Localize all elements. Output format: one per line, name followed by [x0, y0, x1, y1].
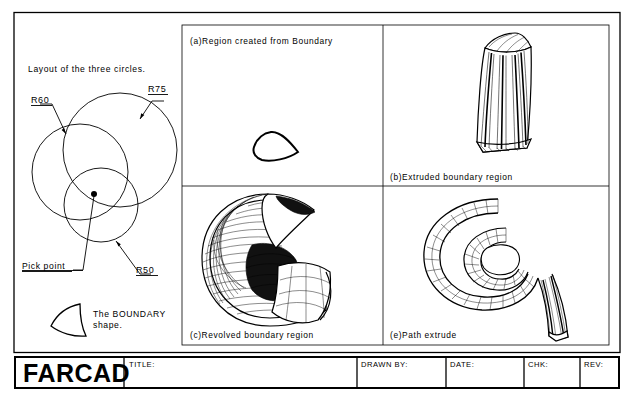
title-field-label: TITLE: — [129, 360, 155, 369]
circle-r75 — [63, 93, 177, 207]
label-r50: R50 — [136, 265, 154, 275]
drawing-canvas: Layout of the three circles. R60 R75 — [0, 0, 634, 399]
boundary-shape-glyph — [51, 304, 86, 336]
boundary-note-line2: shape. — [93, 320, 122, 330]
date-field-label: DATE: — [450, 360, 474, 369]
spiral-center-hole — [481, 245, 519, 275]
panel-b: (b)Extruded boundary region — [390, 33, 531, 182]
panel-b-caption: (b)Extruded boundary region — [390, 172, 513, 182]
panel-c: (c)Revolved boundary region — [190, 194, 331, 340]
circle-layout-panel: Layout of the three circles. R60 R75 — [22, 64, 177, 336]
title-block: FARCAD TITLE: DRAWN BY: DATE: CHK: REV: — [15, 357, 619, 388]
extruded-prism-figure — [477, 33, 531, 152]
drawn-by-field-label: DRAWN BY: — [361, 360, 408, 369]
label-r75: R75 — [148, 84, 166, 94]
circle-r60 — [32, 124, 128, 220]
label-pick-point: Pick point — [22, 261, 65, 271]
layout-heading: Layout of the three circles. — [28, 64, 146, 74]
region-shape — [253, 132, 298, 161]
panel-c-caption: (c)Revolved boundary region — [190, 330, 314, 340]
rev-field-label: REV: — [584, 360, 603, 369]
leader-pick-point: Pick point — [22, 196, 94, 272]
revolved-solid-figure — [202, 194, 331, 326]
panel-a-caption: (a)Region created from Boundary — [190, 36, 333, 46]
drawing-sheet: Layout of the three circles. R60 R75 — [0, 0, 634, 399]
revolve-lower-mouth — [272, 263, 331, 323]
leader-r50: R50 — [116, 241, 158, 276]
path-extrude-figure — [424, 199, 568, 341]
boundary-note-line1: The BOUNDARY — [93, 309, 166, 319]
label-r60: R60 — [31, 95, 49, 105]
panel-e-caption: (e)Path extrude — [390, 330, 457, 340]
circle-r50 — [64, 168, 138, 242]
panel-a: (a)Region created from Boundary — [190, 36, 333, 161]
chk-field-label: CHK: — [528, 360, 548, 369]
panel-e: (e)Path extrude — [390, 199, 568, 341]
farcad-logo: FARCAD — [23, 359, 130, 387]
spiral-outer-edge — [424, 199, 538, 310]
